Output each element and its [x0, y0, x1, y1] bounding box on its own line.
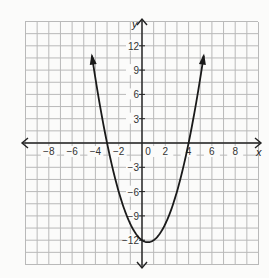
- x-tick-label: 2: [163, 146, 169, 157]
- x-tick-label: −2: [113, 146, 125, 157]
- coordinate-plane: −8−6−4−20246812963−3−6−9−12 x y: [0, 0, 269, 278]
- y-tick-label: 9: [133, 65, 139, 76]
- x-tick-label: −6: [66, 146, 78, 157]
- x-tick-label: 8: [232, 146, 238, 157]
- y-tick-label: 3: [133, 114, 139, 125]
- y-tick-label: 6: [133, 89, 139, 100]
- y-tick-label: −3: [128, 162, 140, 173]
- x-tick-label: −8: [43, 146, 55, 157]
- x-tick-label: 0: [145, 146, 151, 157]
- x-tick-label: −4: [90, 146, 102, 157]
- y-tick-label: −6: [128, 187, 140, 198]
- y-tick-label: −12: [122, 235, 139, 246]
- x-tick-label: 6: [209, 146, 215, 157]
- y-tick-label: 12: [128, 41, 140, 52]
- axes: [22, 19, 261, 268]
- x-axis-label: x: [255, 146, 262, 158]
